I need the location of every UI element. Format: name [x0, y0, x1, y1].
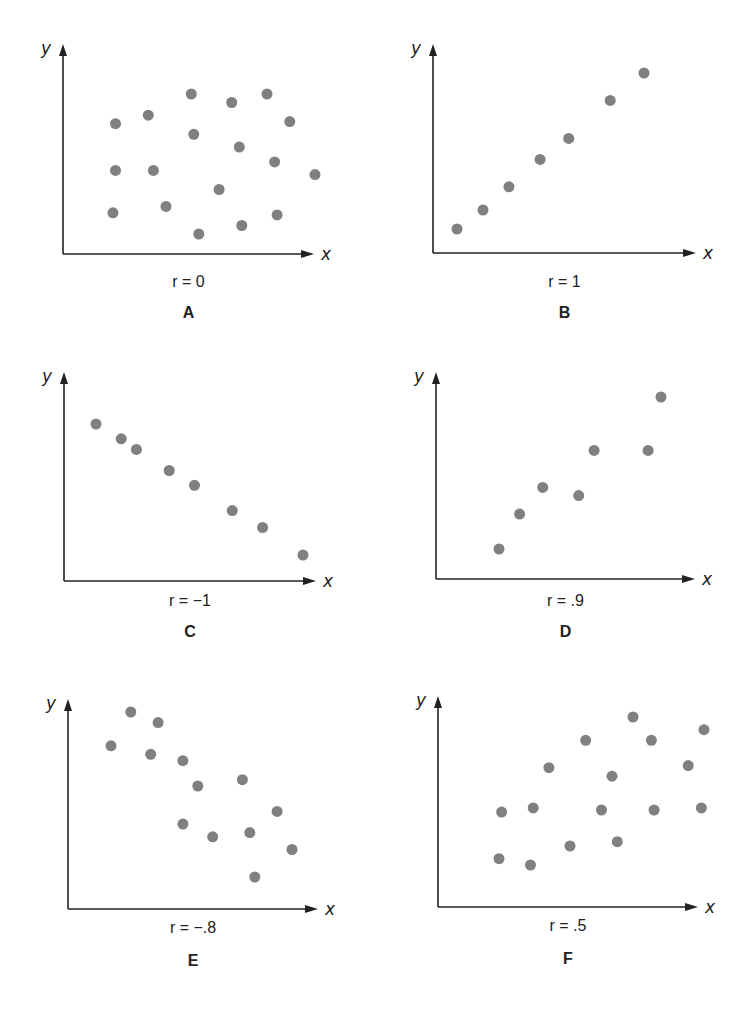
data-point	[249, 872, 260, 883]
data-point	[145, 749, 156, 760]
data-point	[227, 505, 238, 516]
correlation-label: r = 0	[172, 273, 205, 290]
y-axis-label: y	[415, 690, 427, 710]
correlation-label: r = .5	[550, 917, 587, 934]
x-axis-arrow-icon	[685, 903, 698, 911]
correlation-figure: yxr = 0Ayxr = 1Byxr = −1Cyxr = .9Dyxr = …	[0, 0, 747, 1009]
data-point	[192, 781, 203, 792]
x-axis-arrow-icon	[301, 250, 314, 258]
scatter-panel-e: yxr = −.8E	[45, 693, 336, 969]
y-axis-label: y	[45, 693, 57, 713]
data-point	[563, 133, 574, 144]
data-point	[696, 802, 707, 813]
panel-letter: C	[184, 623, 196, 640]
data-point	[605, 95, 616, 106]
panel-letter: B	[559, 304, 571, 321]
data-point	[646, 735, 657, 746]
y-axis-label: y	[41, 366, 53, 386]
x-axis-arrow-icon	[303, 577, 316, 585]
data-point	[503, 181, 514, 192]
data-point	[186, 89, 197, 100]
data-point	[298, 550, 309, 561]
data-point	[177, 819, 188, 830]
data-point	[236, 220, 247, 231]
panel-letter: F	[563, 950, 573, 967]
data-point	[148, 165, 159, 176]
data-point	[494, 544, 505, 555]
data-point	[226, 97, 237, 108]
data-point	[110, 118, 121, 129]
data-point	[573, 490, 584, 501]
data-point	[116, 433, 127, 444]
y-axis-label: y	[413, 366, 425, 386]
data-point	[535, 154, 546, 165]
data-point	[125, 707, 136, 718]
data-point	[143, 110, 154, 121]
data-point	[207, 831, 218, 842]
data-point	[589, 445, 600, 456]
x-axis-label: x	[324, 899, 336, 919]
data-point	[189, 480, 200, 491]
data-point	[580, 735, 591, 746]
data-point	[153, 717, 164, 728]
x-axis-arrow-icon	[305, 905, 318, 913]
data-point	[496, 807, 507, 818]
y-axis-arrow-icon	[432, 372, 440, 384]
data-point	[514, 509, 525, 520]
data-point	[177, 755, 188, 766]
y-axis-label: y	[40, 38, 52, 58]
correlation-label: r = −1	[169, 592, 211, 609]
panel-letter: E	[188, 952, 199, 969]
data-point	[287, 844, 298, 855]
data-point	[628, 712, 639, 723]
scatter-panel-d: yxr = .9D	[413, 366, 713, 640]
y-axis-arrow-icon	[429, 44, 437, 56]
data-point	[234, 142, 245, 153]
data-point	[269, 156, 280, 167]
data-point	[683, 760, 694, 771]
data-point	[649, 805, 660, 816]
y-axis-arrow-icon	[59, 44, 67, 56]
data-point	[639, 68, 650, 79]
data-point	[565, 841, 576, 852]
data-point	[164, 465, 175, 476]
data-point	[656, 392, 667, 403]
data-point	[161, 201, 172, 212]
data-point	[284, 116, 295, 127]
data-point	[612, 836, 623, 847]
y-axis-arrow-icon	[60, 372, 68, 384]
data-point	[272, 209, 283, 220]
data-point	[91, 419, 102, 430]
data-point	[528, 802, 539, 813]
data-point	[110, 165, 121, 176]
data-point	[494, 853, 505, 864]
data-point	[478, 205, 489, 216]
x-axis-label: x	[701, 569, 713, 589]
data-point	[257, 522, 268, 533]
x-axis-arrow-icon	[683, 249, 696, 257]
data-point	[108, 207, 119, 218]
correlation-label: r = −.8	[170, 919, 216, 936]
data-point	[237, 774, 248, 785]
scatter-panel-c: yxr = −1C	[41, 366, 334, 640]
scatter-panel-b: yxr = 1B	[410, 38, 714, 321]
data-point	[106, 740, 117, 751]
panel-letter: A	[183, 304, 195, 321]
data-point	[543, 762, 554, 773]
data-point	[607, 771, 618, 782]
data-point	[452, 224, 463, 235]
x-axis-label: x	[320, 244, 332, 264]
y-axis-arrow-icon	[434, 696, 442, 708]
scatter-panel-f: yxr = .5F	[415, 690, 716, 967]
data-point	[596, 805, 607, 816]
data-point	[193, 229, 204, 240]
data-point	[214, 184, 225, 195]
data-point	[537, 482, 548, 493]
y-axis-label: y	[410, 38, 422, 58]
correlation-label: r = 1	[548, 273, 581, 290]
data-point	[188, 129, 199, 140]
data-point	[131, 444, 142, 455]
y-axis-arrow-icon	[64, 699, 72, 711]
panel-letter: D	[560, 623, 572, 640]
data-point	[272, 806, 283, 817]
